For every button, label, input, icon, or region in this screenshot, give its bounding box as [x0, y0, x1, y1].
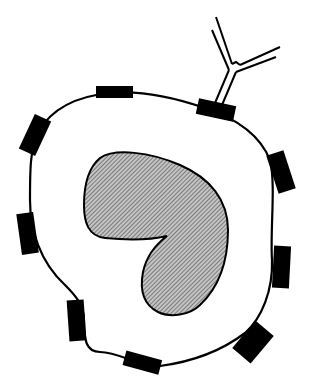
receptor-right-lower: [272, 246, 291, 289]
receptor-lower-left: [67, 299, 87, 341]
antibody-icon: [212, 17, 280, 105]
cell-diagram: [0, 0, 312, 392]
receptor-top: [96, 86, 133, 98]
